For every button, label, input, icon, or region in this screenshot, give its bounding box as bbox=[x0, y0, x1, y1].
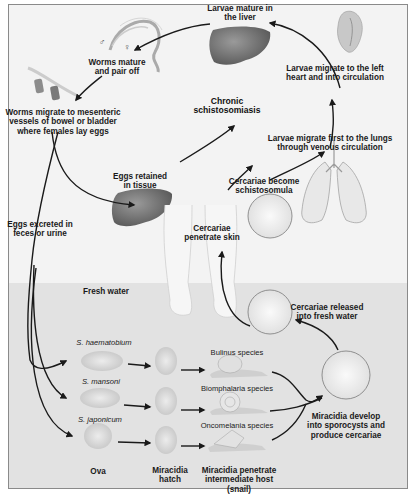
ova-mansoni bbox=[80, 388, 120, 408]
miracidium-1 bbox=[155, 347, 177, 375]
ova-japonicum bbox=[84, 423, 112, 449]
label-species-haematobium: S. haematobium bbox=[76, 338, 131, 347]
label-larvae-lungs: Larvae migrate first to the lungsthrough… bbox=[268, 134, 393, 153]
label-miracidia-hatch: Miracidiahatch bbox=[152, 466, 188, 485]
label-species-mansoni: S. mansoni bbox=[82, 377, 120, 386]
label-larvae-heart: Larvae migrate to the leftheart and into… bbox=[286, 64, 384, 83]
liver-top-illustration bbox=[209, 26, 270, 64]
snail-oncomelania bbox=[208, 430, 266, 452]
snail-biomphalaria bbox=[210, 392, 268, 415]
label-miracidia-penetrate: Miracidia penetrateintermediate host(sna… bbox=[202, 466, 277, 494]
label-eggs-retained: Eggs retainedin tissue bbox=[113, 172, 167, 191]
label-larvae-liver: Larvae mature inthe liver bbox=[207, 4, 273, 23]
label-fresh-water: Fresh water bbox=[83, 287, 129, 296]
label-miracidia-develop: Miracidia developinto sporocysts andprod… bbox=[307, 412, 385, 440]
female-symbol: ♀ bbox=[124, 43, 131, 52]
label-species-japonicum: S. japonicum bbox=[78, 415, 122, 424]
label-host-biomphalaria: Biomphalaria species bbox=[201, 384, 273, 393]
label-cercariae-penetrate: Cercariaepenetrate skin bbox=[184, 224, 240, 243]
miracidium-2 bbox=[155, 387, 177, 415]
label-host-oncomelania: Oncomelania species bbox=[201, 421, 274, 430]
label-cercariae-released: Cercariae releasedinto fresh water bbox=[291, 303, 364, 322]
male-symbol: ♂ bbox=[99, 38, 106, 47]
ova-haematobium bbox=[81, 351, 123, 371]
label-worms-migrate: Worms migrate to mesentericvessels of bo… bbox=[6, 108, 121, 136]
schistosomula-circle bbox=[248, 194, 292, 238]
cercariae-circle bbox=[248, 290, 292, 334]
miracidium-3 bbox=[155, 426, 177, 454]
label-ova: Ova bbox=[90, 467, 105, 476]
label-worms-pair: Worms matureand pair off bbox=[88, 58, 145, 77]
bowel-illustration bbox=[28, 68, 78, 101]
sporocyst-circle bbox=[322, 351, 370, 399]
heart-illustration bbox=[337, 11, 362, 52]
label-eggs-excreted: Eggs excreted infeces or urine bbox=[7, 220, 73, 239]
liver-tissue-illustration bbox=[112, 189, 172, 227]
label-chronic-schistosomiasis: Chronicschistosomiasis bbox=[194, 97, 261, 116]
label-cercariae-become: Cercariae becomeschistosomula bbox=[229, 177, 300, 196]
label-host-bulinus: Bulinus species bbox=[211, 348, 264, 357]
snail-bulinus bbox=[210, 355, 268, 378]
